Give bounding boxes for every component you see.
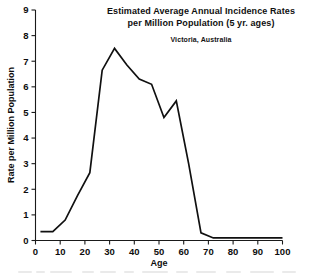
y-tick-label: 0 bbox=[23, 235, 28, 246]
x-tick-label: 90 bbox=[253, 246, 264, 257]
data-series-line bbox=[40, 48, 282, 238]
y-tick-label: 2 bbox=[23, 184, 28, 195]
y-tick-label: 1 bbox=[23, 209, 29, 220]
y-axis-title: Rate per Million Population bbox=[6, 67, 16, 183]
y-tick-label: 7 bbox=[23, 56, 28, 67]
y-tick-label: 4 bbox=[23, 132, 29, 143]
x-tick-label: 60 bbox=[178, 246, 189, 257]
line-chart-plot: 0123456789 0102030405060708090100 Age Ra… bbox=[0, 0, 311, 274]
y-tick-label: 5 bbox=[23, 107, 29, 118]
x-tick-label: 80 bbox=[228, 246, 239, 257]
y-tick-label: 6 bbox=[23, 81, 28, 92]
x-tick-label: 10 bbox=[55, 246, 66, 257]
x-tick-label: 100 bbox=[275, 246, 291, 257]
x-tick-label: 0 bbox=[33, 246, 38, 257]
y-tick-label: 3 bbox=[23, 158, 28, 169]
y-axis-ticks: 0123456789 bbox=[23, 4, 35, 246]
x-tick-label: 40 bbox=[129, 246, 140, 257]
x-tick-label: 30 bbox=[104, 246, 115, 257]
x-axis-ticks: 0102030405060708090100 bbox=[33, 241, 291, 257]
x-axis-title: Age bbox=[150, 258, 167, 268]
chart-figure: Estimated Average Annual Incidence Rates… bbox=[0, 0, 311, 274]
x-tick-label: 70 bbox=[203, 246, 214, 257]
y-tick-label: 9 bbox=[23, 4, 28, 15]
y-tick-label: 8 bbox=[23, 30, 28, 41]
x-tick-label: 20 bbox=[80, 246, 91, 257]
x-tick-label: 50 bbox=[154, 246, 165, 257]
